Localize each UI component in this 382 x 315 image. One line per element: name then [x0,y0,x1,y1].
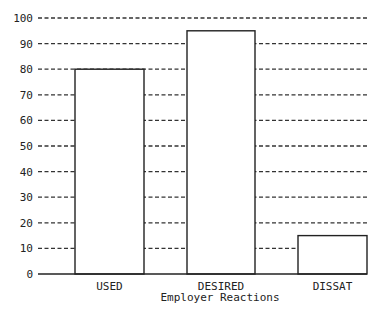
y-tick-label: 30 [20,191,33,204]
y-tick-label: 40 [20,166,33,179]
bar-dissat [298,236,367,274]
bars [75,31,367,274]
y-tick-label: 100 [13,12,33,25]
y-tick-label: 90 [20,38,33,51]
y-tick-label: 10 [20,242,33,255]
y-axis-ticks: 0102030405060708090100 [13,12,33,281]
y-tick-label: 50 [20,140,33,153]
y-tick-label: 70 [20,89,33,102]
category-label: DISSAT [313,280,353,293]
y-tick-label: 60 [20,114,33,127]
y-tick-label: 20 [20,217,33,230]
x-axis-label: Employer Reactions [160,291,279,304]
bar-desired [187,31,255,274]
bar-used [75,69,144,274]
category-label: USED [96,280,123,293]
bar-chart: 0102030405060708090100 USEDDESIREDDISSAT… [0,0,382,315]
y-tick-label: 80 [20,63,33,76]
y-tick-label: 0 [26,268,33,281]
